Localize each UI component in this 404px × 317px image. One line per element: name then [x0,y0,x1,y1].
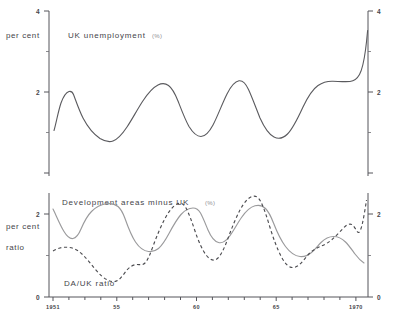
x-ticklabel-1970: 1970 [349,304,363,310]
top-series-label: UK unemployment [68,31,146,40]
top-right-ticklabel-2: 2 [377,89,381,96]
da-uk-ratio-curve [53,196,367,282]
bottom-x-ticks [53,297,356,301]
uk-unemployment-curve [54,31,368,142]
top-left-ticklabel-2: 2 [36,89,40,96]
bottom-yaxis-label-ratio: ratio [6,243,25,252]
bottom-right-ticklabel-0: 0 [377,294,381,301]
x-ticklabel-55: 55 [113,304,120,310]
economics-figure: 4 2 4 2 per cent UK unemployment (%) [0,0,404,317]
bottom-series-label-da-uk-ratio: DA/UK ratio [64,279,115,288]
bottom-left-ticklabel-0: 0 [36,294,40,301]
top-left-ticklabel-4: 4 [36,8,40,15]
bottom-series-label-da-minus-uk: Development areas minus UK [62,198,189,207]
x-ticklabel-65: 65 [273,304,280,310]
top-panel-chart: 4 2 4 2 per cent UK unemployment (%) [0,0,404,180]
top-right-ticklabel-4: 4 [377,8,381,15]
bottom-series-units-da-minus-uk: (%) [205,200,215,206]
bottom-panel-chart: 2 0 2 0 1951 55 60 65 1970 per cent rati… [0,180,404,317]
bottom-yaxis-label-percent: per cent [6,222,40,231]
top-series-units: (%) [152,33,162,39]
da-minus-uk-curve [53,204,364,263]
x-ticklabel-60: 60 [193,304,200,310]
bottom-left-ticklabel-2: 2 [36,211,40,218]
bottom-right-ticklabel-2: 2 [377,211,381,218]
top-yaxis-label: per cent [6,31,40,40]
x-ticklabel-1951: 1951 [46,304,60,310]
